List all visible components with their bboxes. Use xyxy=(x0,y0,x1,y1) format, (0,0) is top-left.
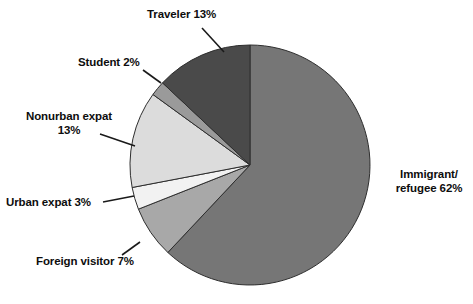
slice-label-urban-expat: Urban expat 3% xyxy=(6,196,91,210)
pie-chart: Traveler 13% Student 2% Nonurban expat 1… xyxy=(0,0,473,304)
leader-line-urban xyxy=(103,196,134,202)
leader-line-student xyxy=(143,70,161,83)
leader-line-traveler xyxy=(202,28,224,52)
pie-slices-group xyxy=(130,45,370,285)
slice-label-nonurban-expat: Nonurban expat 13% xyxy=(10,110,128,137)
slice-label-foreign-visitor: Foreign visitor 7% xyxy=(36,255,134,269)
slice-label-student: Student 2% xyxy=(78,56,140,70)
slice-label-immigrant-refugee: Immigrant/ refugee 62% xyxy=(388,168,470,195)
leader-line-foreign xyxy=(122,242,140,255)
slice-label-traveler: Traveler 13% xyxy=(147,8,216,22)
